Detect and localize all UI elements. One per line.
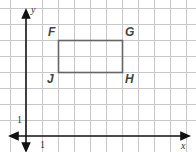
x-tick-label: 1	[40, 139, 45, 150]
x-axis	[10, 133, 189, 140]
grid-lines	[0, 0, 196, 152]
vertex-label-G: G	[125, 25, 134, 39]
y-tick-label: 1	[17, 114, 22, 125]
y-axis-label: y	[31, 4, 35, 15]
vertex-label-H: H	[125, 72, 134, 86]
x-axis-left-arrow-icon	[10, 133, 18, 140]
y-axis	[23, 10, 30, 151]
y-axis-down-arrow-icon	[23, 143, 30, 151]
vertex-label-J: J	[47, 72, 54, 86]
x-axis-label: x	[181, 140, 185, 151]
x-axis-right-arrow-icon	[181, 133, 189, 140]
y-axis-up-arrow-icon	[23, 10, 30, 18]
vertex-label-F: F	[48, 25, 55, 39]
coordinate-plane	[0, 0, 196, 152]
